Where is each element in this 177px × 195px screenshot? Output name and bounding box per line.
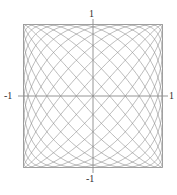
tick-label-top: 1 <box>89 9 94 19</box>
lissajous-figure: 1 -1 -1 1 <box>0 0 177 195</box>
tick-label-left: -1 <box>4 91 12 101</box>
plot-canvas <box>0 0 177 195</box>
tick-label-bottom: -1 <box>86 174 94 184</box>
tick-label-right: 1 <box>169 91 174 101</box>
